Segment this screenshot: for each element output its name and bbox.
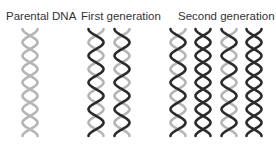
dna-double-helix [89,29,104,136]
dna-double-helix [247,29,262,136]
helix-group-0 [23,29,38,136]
dna-double-helix [196,29,211,136]
dna-double-helix [171,29,186,136]
dna-double-helix [23,29,38,136]
dna-double-helix [222,29,237,136]
dna-replication-diagram [0,0,276,149]
dna-double-helix [115,29,130,136]
helix-group-2 [171,29,262,136]
helix-group-1 [89,29,130,136]
